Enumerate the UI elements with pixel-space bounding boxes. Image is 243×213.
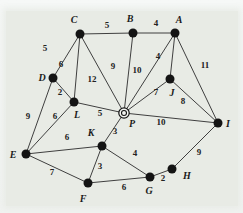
graph-edge-C-D [53,34,80,78]
graph-edge-D-L [53,78,74,102]
graph-edge-J-I [170,79,218,123]
node-label-F: F [79,193,87,204]
graph-node-F [84,179,93,188]
node-label-C: C [71,14,78,25]
graph-edge-C-L [74,34,80,102]
edge-weight-C-B: 5 [105,20,110,30]
edge-weight-K-F: 3 [98,161,103,171]
edge-weight-A-J: 4 [156,51,161,61]
edge-weight-E-F: 7 [50,167,55,177]
graph-node-P-outer [119,108,129,118]
graph-node-J [166,75,175,84]
graph-node-E [22,150,31,159]
edge-weight-E-K: 6 [65,132,70,142]
node-label-B: B [126,13,134,24]
node-label-I: I [225,118,231,129]
edge-weight-G-H: 2 [161,173,166,183]
edge-weight-D-L: 2 [58,87,63,97]
edge-weight-C-L: 6 [59,59,64,69]
node-label-L: L [73,109,80,120]
edge-weight-H-I: 9 [197,147,202,157]
node-label-H: H [182,170,192,181]
graph-svg: 5456129104112965781036734629ABCDEFGHIJKL… [0,0,243,213]
edge-weight-P-J: 7 [154,87,159,97]
edge-weight-P-I: 10 [157,117,167,127]
node-label-E: E [9,149,17,160]
graph-edge-K-G [102,146,150,177]
node-label-G: G [145,185,153,196]
graph-edge-C-B [80,33,133,34]
graph-edge-H-I [172,123,218,169]
edge-weight-L-P: 5 [98,108,103,118]
node-label-K: K [87,127,96,138]
edge-weight-C-D: 5 [43,43,48,53]
edge-weight-D-E: 9 [26,111,31,121]
graph-node-D [49,74,58,83]
graph-edge-E-F [26,154,88,183]
edge-weight-C-P: 12 [88,74,98,84]
graph-edge-A-I [175,33,218,123]
graph-edge-L-E [26,102,74,154]
edge-weight-F-G: 6 [122,182,127,192]
graph-node-B [129,29,138,38]
edge-weight-P-K: 3 [113,126,118,136]
edge-weight-L-E: 6 [53,111,58,121]
edge-weight-J-I: 8 [181,96,186,106]
node-label-J: J [169,87,176,98]
graph-node-G [146,173,155,182]
graph-node-A [171,29,180,38]
edge-weight-B-P: 9 [111,61,116,71]
node-label-P: P [129,118,136,129]
graph-edge-F-G [88,177,150,183]
graph-node-H [168,165,177,174]
graph-node-L [70,98,79,107]
graph-edge-P-J [124,79,170,113]
graph-edge-E-K [26,146,102,154]
graph-figure: 5456129104112965781036734629ABCDEFGHIJKL… [0,0,243,213]
node-label-A: A [175,14,183,25]
graph-node-K [98,142,107,151]
edge-weight-A-I: 11 [201,60,210,70]
graph-edge-P-I [124,113,218,123]
edge-weight-B-A: 4 [154,18,159,28]
edge-weight-K-G: 4 [133,148,138,158]
node-label-D: D [37,72,45,83]
edge-weight-A-P: 10 [133,65,143,75]
graph-node-I [214,119,223,128]
graph-node-C [76,30,85,39]
